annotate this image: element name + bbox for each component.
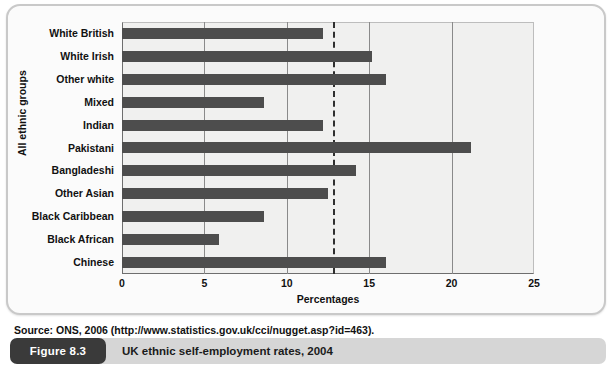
bar-row	[122, 205, 264, 228]
bar-row	[122, 251, 386, 274]
category-label-pakistani: Pakistani	[68, 137, 114, 160]
category-label-indian: Indian	[83, 114, 114, 137]
bar-black-caribbean	[122, 211, 264, 222]
figure-caption-strip: UK ethnic self-employment rates, 2004	[96, 338, 606, 364]
category-label-chinese: Chinese	[73, 251, 114, 274]
bar-pakistani	[122, 142, 471, 153]
bar-row	[122, 114, 323, 137]
plot-area	[122, 22, 534, 274]
x-tick-label-0: 0	[119, 277, 125, 289]
category-label-other-white: Other white	[56, 68, 114, 91]
category-axis-labels: White BritishWhite IrishOther whiteMixed…	[18, 22, 118, 274]
bar-row	[122, 68, 386, 91]
category-label-white-british: White British	[49, 22, 114, 45]
bar-white-irish	[122, 51, 372, 62]
x-tick-label-10: 10	[281, 277, 293, 289]
figure-card: All ethnic groups White BritishWhite Iri…	[6, 4, 606, 315]
category-label-black-african: Black African	[47, 228, 114, 251]
bar-other-asian	[122, 188, 328, 199]
bar-indian	[122, 120, 323, 131]
bar-chinese	[122, 257, 386, 268]
category-label-bangladeshi: Bangladeshi	[52, 159, 114, 182]
category-label-white-irish: White Irish	[60, 45, 114, 68]
category-label-black-caribbean: Black Caribbean	[32, 205, 114, 228]
bar-white-british	[122, 28, 323, 39]
x-axis-title: Percentages	[297, 293, 359, 305]
bar-bangladeshi	[122, 165, 356, 176]
bar-row	[122, 91, 264, 114]
figure-caption-bar: Figure 8.3 UK ethnic self-employment rat…	[10, 338, 606, 364]
bar-row	[122, 22, 323, 45]
bar-row	[122, 137, 471, 160]
bar-mixed	[122, 97, 264, 108]
x-tick-label-20: 20	[446, 277, 458, 289]
bar-row	[122, 228, 219, 251]
x-tick-label-5: 5	[201, 277, 207, 289]
bar-row	[122, 159, 356, 182]
bar-other-white	[122, 74, 386, 85]
bar-row	[122, 45, 372, 68]
source-note: Source: ONS, 2006 (http://www.statistics…	[14, 324, 374, 336]
x-tick-label-25: 25	[528, 277, 540, 289]
figure-number-badge: Figure 8.3	[10, 338, 106, 364]
category-label-other-asian: Other Asian	[55, 182, 114, 205]
bar-series	[122, 22, 534, 274]
x-tick-label-15: 15	[363, 277, 375, 289]
figure-caption-text: UK ethnic self-employment rates, 2004	[122, 345, 333, 357]
bar-row	[122, 182, 328, 205]
category-label-mixed: Mixed	[84, 91, 114, 114]
bar-black-african	[122, 234, 219, 245]
